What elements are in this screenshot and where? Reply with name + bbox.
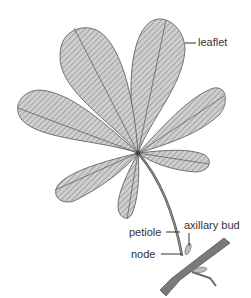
stem — [160, 238, 230, 296]
label-petiole: petiole — [129, 227, 161, 238]
leaflet-junction — [136, 151, 141, 156]
label-leaflet: leaflet — [198, 37, 227, 48]
label-node: node — [131, 249, 155, 260]
axillary-bud — [184, 243, 193, 256]
side-shoot — [192, 272, 216, 286]
label-axillary-bud: axillary bud — [184, 220, 240, 231]
leaflets — [18, 19, 226, 218]
